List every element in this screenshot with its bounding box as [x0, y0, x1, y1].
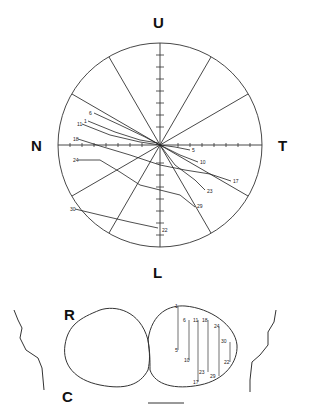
brain-outline	[14, 306, 276, 403]
point-label-29: 29	[197, 203, 203, 209]
brain-label-18: 18	[202, 317, 208, 323]
label-caudal: C	[62, 388, 73, 405]
radial-line	[160, 145, 248, 196]
point-label-24: 24	[73, 157, 79, 163]
point-label-18: 18	[73, 136, 79, 142]
label-down: L	[153, 264, 162, 281]
radial-line	[160, 94, 248, 145]
brain-label-5: 5	[175, 347, 178, 353]
point-label-23: 23	[207, 188, 213, 194]
right-wavy-edge	[250, 310, 276, 392]
figure: U L N T 1 6 11 18 24 30 5 10 17 23 29 22…	[0, 0, 309, 412]
point-label-5: 5	[192, 147, 195, 153]
point-label-11: 11	[77, 121, 82, 127]
trajectory-30-22	[75, 209, 158, 228]
radial-line	[109, 145, 160, 233]
radial-line	[72, 145, 160, 196]
brain-label-11: 11	[193, 317, 198, 323]
point-label-30: 30	[70, 206, 76, 212]
trajectory-6	[94, 113, 160, 145]
brain-label-30: 30	[221, 338, 227, 344]
point-label-1: 1	[84, 118, 87, 124]
label-rostral: R	[64, 306, 75, 323]
label-temporal: T	[278, 137, 287, 154]
point-label-17: 17	[233, 178, 239, 184]
brain-point-labels: 1 6 11 18 24 30 5 10 22 23 29 17	[175, 303, 230, 385]
brain-label-10: 10	[184, 357, 190, 363]
brain-label-29: 29	[210, 373, 216, 379]
brain-label-24: 24	[214, 323, 220, 329]
brain-label-6: 6	[183, 317, 186, 323]
label-up: U	[153, 14, 164, 31]
brain-label-22: 22	[224, 359, 230, 365]
visual-field-map	[58, 43, 262, 247]
point-label-6: 6	[89, 110, 92, 116]
label-nasal: N	[31, 137, 42, 154]
brain-label-1: 1	[175, 303, 178, 309]
point-label-22: 22	[162, 227, 168, 233]
point-labels: 1 6 11 18 24 30 5 10 17 23 29 22	[70, 110, 239, 233]
trajectories	[75, 113, 231, 228]
left-wavy-edge	[14, 310, 44, 390]
left-lobe	[65, 308, 150, 387]
point-label-10: 10	[200, 159, 206, 165]
trajectory-11	[82, 124, 160, 145]
brain-label-17: 17	[193, 379, 199, 385]
brain-label-23: 23	[199, 369, 205, 375]
radial-line	[160, 57, 211, 145]
